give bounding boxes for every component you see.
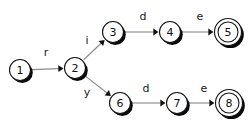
- transition-label-4-to-5: e: [197, 10, 204, 23]
- transition-edge-4-to-5: [182, 29, 214, 36]
- arrowhead-icon: [153, 29, 158, 36]
- transition-label-1-to-2: r: [44, 46, 49, 59]
- state-node-label: 5: [225, 26, 232, 39]
- state-node-4[interactable]: 4: [160, 22, 183, 46]
- state-node-6[interactable]: 6: [110, 93, 133, 117]
- arrowhead-icon: [208, 29, 213, 36]
- transition-label-6-to-7: d: [143, 82, 150, 95]
- state-node-3[interactable]: 3: [103, 22, 126, 46]
- state-node-8[interactable]: 8: [216, 90, 245, 120]
- arrowhead-icon: [209, 100, 214, 107]
- state-node-1[interactable]: 1: [10, 60, 33, 84]
- transition-edge-3-to-4: [125, 29, 159, 36]
- transition-edge-7-to-8: [189, 100, 215, 107]
- state-node-label: 6: [117, 97, 124, 110]
- state-node-2[interactable]: 2: [65, 58, 88, 82]
- transition-edge-1-to-2: [32, 65, 64, 72]
- transition-label-3-to-4: d: [140, 10, 147, 23]
- arrowhead-icon: [105, 90, 111, 96]
- state-node-label: 2: [72, 62, 79, 75]
- arrowhead-icon: [58, 65, 63, 72]
- edge-labels-layer: rideyde: [44, 10, 208, 99]
- transition-label-7-to-8: e: [201, 82, 208, 95]
- transition-label-2-to-6: y: [84, 86, 91, 99]
- state-node-5[interactable]: 5: [215, 19, 244, 49]
- transition-label-2-to-3: i: [85, 34, 88, 47]
- state-node-label: 1: [17, 64, 24, 77]
- state-node-7[interactable]: 7: [167, 93, 190, 117]
- state-diagram-svg: 12345678 rideyde: [0, 0, 252, 127]
- state-node-label: 8: [226, 97, 233, 110]
- state-node-label: 7: [174, 97, 181, 110]
- arrowhead-icon: [160, 100, 165, 107]
- state-diagram-canvas: 12345678 rideyde: [0, 0, 252, 127]
- state-node-label: 3: [110, 26, 117, 39]
- transition-edge-6-to-7: [132, 100, 166, 107]
- state-node-label: 4: [167, 26, 174, 39]
